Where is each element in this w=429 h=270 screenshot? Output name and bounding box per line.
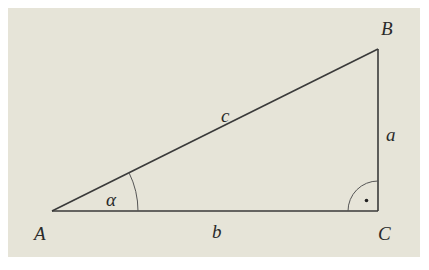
vertex-label-b: B [381, 18, 393, 39]
vertex-label-a: A [32, 223, 46, 244]
vertex-label-c: C [378, 223, 391, 244]
right-angle-arc [348, 181, 378, 211]
side-label-a: a [386, 124, 396, 145]
side-label-b: b [212, 221, 222, 242]
angle-alpha-arc [129, 173, 138, 211]
angle-label-alpha: α [106, 189, 117, 210]
side-label-c: c [221, 105, 230, 126]
right-triangle-diagram: A B C c a b α [0, 0, 429, 270]
right-angle-dot [365, 199, 369, 203]
side-c [52, 49, 378, 211]
